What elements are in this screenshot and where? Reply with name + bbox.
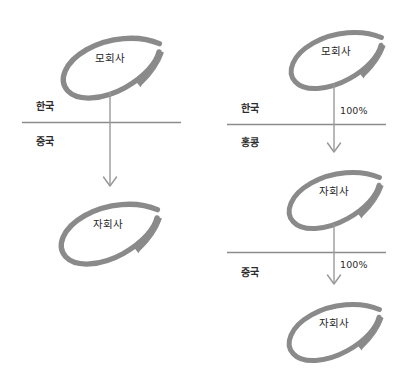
left-region-label-above: 한국	[36, 98, 54, 113]
left-parent-node-shape	[56, 29, 170, 105]
diagram-vector-layer	[0, 0, 406, 383]
diagram-canvas: 모회사 한국 중국 자회사 모회사 한국 100% 홍콩 자회사 100% 중국…	[0, 0, 406, 383]
right-region-label-1: 한국	[241, 100, 259, 115]
right-ownership-label-2: 100%	[340, 259, 368, 270]
left-subsidiary-node-shape	[54, 195, 168, 271]
right-region-label-2: 홍콩	[241, 134, 259, 149]
right-parent-node-shape	[285, 24, 392, 95]
right-ownership-label-1: 100%	[340, 105, 368, 116]
right-connector-arrow-1	[328, 84, 341, 152]
right-subsidiary-2-node-shape	[283, 296, 390, 367]
right-connector-arrow-2	[328, 224, 341, 284]
right-region-label-3: 중국	[241, 264, 259, 279]
right-subsidiary-1-node-shape	[283, 164, 390, 235]
left-connector-arrow	[104, 92, 117, 186]
left-region-label-below: 중국	[36, 133, 54, 148]
